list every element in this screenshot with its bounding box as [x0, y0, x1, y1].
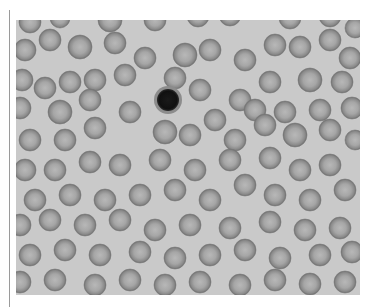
- red-blood-cell: [184, 159, 206, 181]
- red-blood-cell: [259, 211, 281, 233]
- red-blood-cell: [149, 149, 171, 171]
- micrograph-canvas: [16, 20, 360, 295]
- red-blood-cell: [264, 269, 286, 291]
- red-blood-cell: [129, 184, 151, 206]
- red-blood-cell: [89, 244, 111, 266]
- red-blood-cell: [164, 179, 186, 201]
- red-blood-cell: [234, 49, 256, 71]
- red-blood-cell: [39, 29, 61, 51]
- red-blood-cell: [54, 239, 76, 261]
- red-blood-cell: [79, 151, 101, 173]
- red-blood-cell: [164, 247, 186, 269]
- red-blood-cell: [104, 32, 126, 54]
- red-blood-cell: [39, 209, 61, 231]
- red-blood-cell: [264, 34, 286, 56]
- red-blood-cell: [199, 189, 221, 211]
- red-blood-cell: [334, 179, 356, 201]
- left-border-line: [9, 10, 10, 307]
- red-blood-cell: [269, 247, 291, 269]
- red-blood-cell: [153, 120, 177, 144]
- red-blood-cell: [16, 159, 36, 181]
- red-blood-cell: [229, 274, 251, 295]
- red-blood-cell: [144, 219, 166, 241]
- red-blood-cell: [319, 119, 341, 141]
- red-blood-cell: [259, 147, 281, 169]
- red-blood-cell: [24, 189, 46, 211]
- red-blood-cell: [94, 189, 116, 211]
- red-blood-cell: [289, 36, 311, 58]
- red-blood-cell: [259, 71, 281, 93]
- red-blood-cell: [154, 274, 176, 295]
- red-blood-cell: [189, 271, 211, 293]
- red-blood-cell: [59, 71, 81, 93]
- red-blood-cell: [179, 214, 201, 236]
- red-blood-cell: [204, 109, 226, 131]
- red-blood-cell: [199, 39, 221, 61]
- red-blood-cell: [334, 271, 356, 293]
- red-blood-cell: [309, 99, 331, 121]
- red-blood-cell: [179, 124, 201, 146]
- red-blood-cell: [339, 47, 360, 69]
- red-blood-cell: [219, 149, 241, 171]
- red-blood-cell: [234, 174, 256, 196]
- blood-smear-image: [16, 20, 360, 295]
- red-blood-cell: [289, 159, 311, 181]
- red-blood-cell: [74, 214, 96, 236]
- red-blood-cell: [54, 129, 76, 151]
- red-blood-cell: [224, 129, 246, 151]
- red-blood-cell: [109, 209, 131, 231]
- wbc-nucleus: [157, 89, 179, 111]
- red-blood-cell: [341, 97, 360, 119]
- red-blood-cell: [164, 67, 186, 89]
- red-blood-cell: [299, 273, 321, 295]
- red-blood-cell: [19, 244, 41, 266]
- red-blood-cell: [298, 68, 322, 92]
- red-blood-cell: [84, 69, 106, 91]
- red-blood-cell: [199, 244, 221, 266]
- red-blood-cell: [119, 269, 141, 291]
- red-blood-cell: [319, 29, 341, 51]
- red-blood-cell: [79, 89, 101, 111]
- red-blood-cell: [219, 217, 241, 239]
- red-blood-cell: [294, 219, 316, 241]
- red-blood-cell: [274, 101, 296, 123]
- red-blood-cell: [254, 114, 276, 136]
- red-blood-cell: [109, 154, 131, 176]
- red-blood-cell: [234, 239, 256, 261]
- red-blood-cell: [119, 101, 141, 123]
- red-blood-cell: [48, 100, 72, 124]
- red-blood-cell: [129, 241, 151, 263]
- white-blood-cell: [154, 86, 182, 114]
- red-blood-cell: [264, 184, 286, 206]
- red-blood-cell: [44, 269, 66, 291]
- red-blood-cell: [34, 77, 56, 99]
- red-blood-cell: [16, 39, 36, 61]
- red-blood-cell: [68, 35, 92, 59]
- red-blood-cell: [114, 64, 136, 86]
- red-blood-cell: [84, 274, 106, 295]
- red-blood-cell: [189, 79, 211, 101]
- red-blood-cell: [134, 47, 156, 69]
- red-blood-cell: [331, 71, 353, 93]
- red-blood-cell: [319, 154, 341, 176]
- red-blood-cell: [341, 241, 360, 263]
- red-blood-cell: [283, 123, 307, 147]
- red-blood-cell: [173, 43, 197, 67]
- red-blood-cell: [84, 117, 106, 139]
- red-blood-cell: [309, 244, 331, 266]
- red-blood-cell: [19, 129, 41, 151]
- red-blood-cell: [59, 184, 81, 206]
- red-blood-cell: [329, 217, 351, 239]
- red-blood-cell: [44, 159, 66, 181]
- red-blood-cell: [299, 189, 321, 211]
